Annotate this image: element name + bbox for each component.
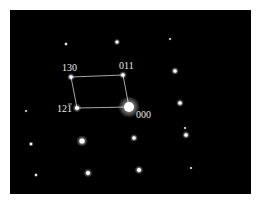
diffraction-spot xyxy=(169,38,171,40)
diffraction-pattern: 130011121000 xyxy=(0,0,262,203)
index-label-011: 011 xyxy=(119,60,134,71)
diffraction-spot xyxy=(86,171,90,175)
diffraction-spot xyxy=(184,127,186,129)
index-labels: 130011121000 xyxy=(57,60,151,120)
diffraction-spot xyxy=(65,43,67,45)
indexed-spot-000 xyxy=(124,102,134,112)
diffraction-spot xyxy=(132,136,136,140)
diffraction-spot xyxy=(30,143,32,145)
indexed-spot-12-1 xyxy=(75,106,79,110)
index-label-130: 130 xyxy=(62,62,77,73)
indexed-spot-130 xyxy=(69,75,73,79)
diffraction-spot xyxy=(116,41,119,44)
index-label-12-1: 121 xyxy=(57,103,72,114)
diffraction-spot xyxy=(35,174,37,176)
index-label-000: 000 xyxy=(136,109,151,120)
diffraction-spot xyxy=(178,101,182,105)
diffraction-spot xyxy=(137,168,141,172)
diffraction-spot xyxy=(184,133,188,137)
indexed-spot-011 xyxy=(121,73,125,77)
diffraction-spot xyxy=(190,167,192,169)
diffraction-spot xyxy=(25,110,27,112)
diffraction-spot xyxy=(79,138,84,143)
diffraction-spot xyxy=(173,69,177,73)
